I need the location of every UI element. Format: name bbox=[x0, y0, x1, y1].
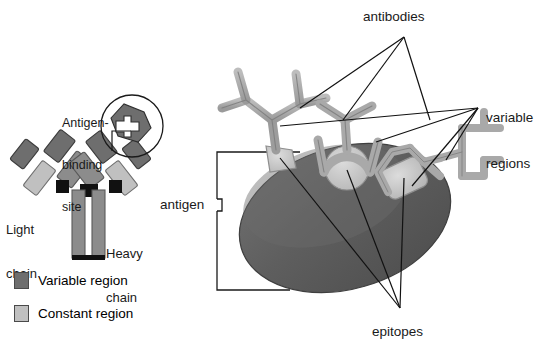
figure-canvas: Antigen- binding site Light chain Heavy … bbox=[0, 0, 544, 353]
legend-swatch-constant bbox=[14, 305, 29, 322]
antigen-binding-site-label: Antigen- binding site bbox=[62, 88, 109, 242]
constant-light-left bbox=[23, 160, 56, 196]
variable-regions-label: variable regions bbox=[486, 80, 533, 201]
fc-base bbox=[72, 255, 105, 260]
legend-label-constant: Constant region bbox=[38, 306, 133, 321]
legend-item-variable: Variable region bbox=[14, 272, 128, 289]
antigen-label: antigen bbox=[160, 197, 204, 212]
antibodies-label: antibodies bbox=[363, 9, 425, 24]
legend-swatch-variable bbox=[14, 272, 29, 289]
legend-label-variable: Variable region bbox=[38, 273, 128, 288]
legend-item-constant: Constant region bbox=[14, 305, 133, 322]
variable-tip-light-right bbox=[122, 139, 151, 170]
epitopes-label: epitopes bbox=[372, 324, 423, 339]
variable-tip-light-left bbox=[10, 139, 39, 170]
disulfide-bond-right bbox=[109, 180, 122, 193]
light-chain-label: Light chain bbox=[6, 194, 37, 310]
